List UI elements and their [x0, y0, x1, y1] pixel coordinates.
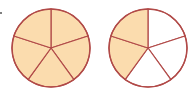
fraction-diagram — [0, 0, 188, 97]
right-circle — [109, 9, 187, 87]
left-circle — [12, 9, 90, 87]
